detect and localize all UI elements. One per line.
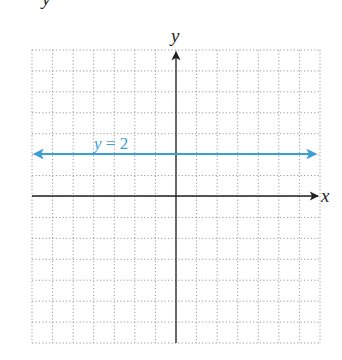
line-label-var: y [92,134,102,153]
x-axis-label: x [320,185,330,206]
line-label: y = 2 [92,134,128,153]
coordinate-plane: x y y = 2 [0,0,342,360]
line-label-eq: = 2 [102,134,129,153]
y-axis-label: y [169,25,180,46]
